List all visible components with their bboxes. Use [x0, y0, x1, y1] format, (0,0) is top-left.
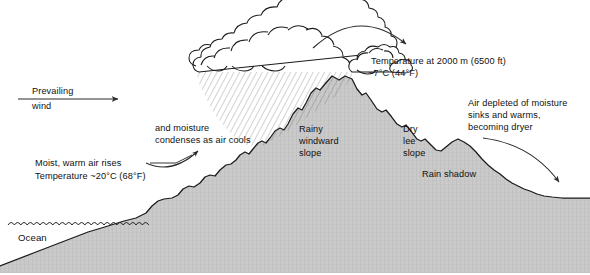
diagram-canvas: [0, 0, 590, 275]
lee-slope-label-line3: slope: [403, 148, 425, 159]
prevailing-wind-label-line1: Prevailing: [32, 86, 73, 97]
moist-warm-air-label: Moist, warm air rises: [35, 158, 121, 169]
windward-slope-label-line3: slope: [299, 148, 321, 159]
curved-arrow-up-icon: [146, 151, 198, 167]
windward-slope-label-line2: windward: [299, 136, 339, 147]
air-depleted-label-line1: Air depleted of moisture: [468, 98, 567, 109]
condenses-label-line2: condenses as air cools: [155, 135, 251, 146]
lee-slope-label-line2: lee: [403, 136, 416, 147]
ocean-label: Ocean: [18, 232, 47, 243]
summit-temperature-label-line1: Temperature at 2000 m (6500 ft): [371, 56, 506, 67]
leader-line-icon: [150, 155, 192, 163]
summit-temperature-label-line2: ~7°C (44°F): [368, 68, 418, 79]
prevailing-wind-label-line2: wind: [32, 101, 51, 112]
rain-shadow-label: Rain shadow: [422, 169, 476, 180]
lee-slope-label-line1: Dry: [403, 124, 418, 135]
orographic-precipitation-diagram: Prevailing wind Moist, warm air rises Te…: [0, 0, 590, 275]
air-depleted-label-line3: becoming dryer: [468, 122, 533, 133]
windward-slope-label-line1: Rainy: [299, 124, 323, 135]
sea-level-temperature-label: Temperature ~20°C (68°F): [35, 171, 146, 182]
condenses-label-line1: and moisture: [155, 123, 209, 134]
air-depleted-label-line2: sinks and warms,: [468, 110, 541, 121]
